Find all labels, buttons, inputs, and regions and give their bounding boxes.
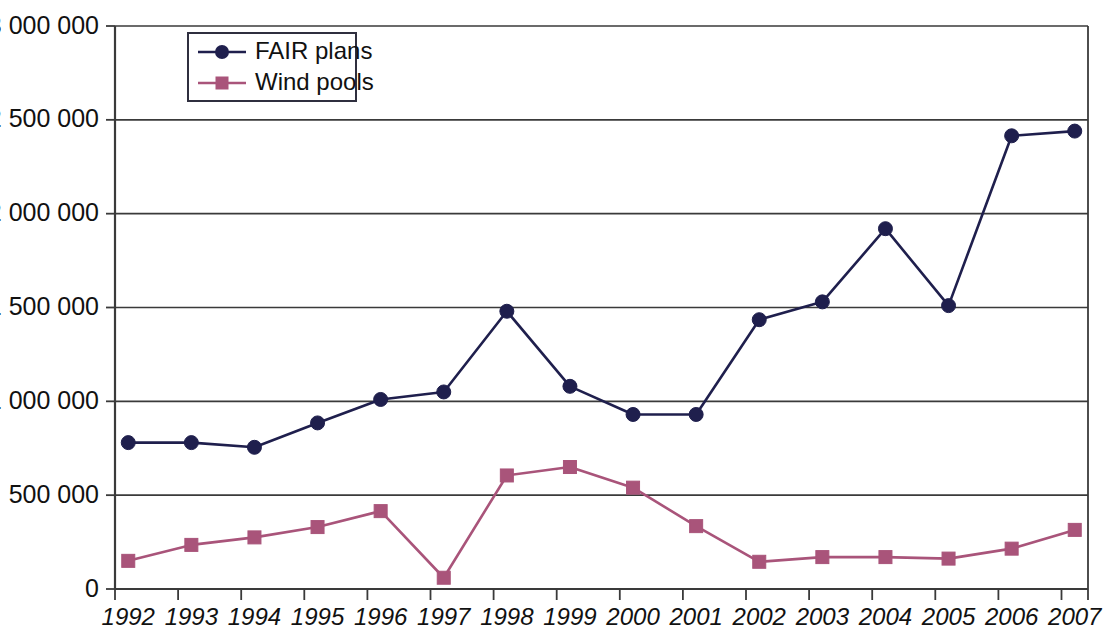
x-tick-label: 2007 bbox=[1047, 603, 1103, 630]
data-point-marker bbox=[942, 299, 956, 313]
x-tick-label: 2001 bbox=[668, 603, 722, 630]
line-chart: 0500 0001 000 0001 500 0002 000 0002 500… bbox=[0, 0, 1113, 639]
x-tick-label: 2002 bbox=[732, 603, 786, 630]
x-tick-label: 1992 bbox=[102, 603, 155, 630]
series-line bbox=[128, 131, 1074, 447]
x-tick-label: 1993 bbox=[165, 603, 219, 630]
x-tick-label: 2005 bbox=[921, 603, 976, 630]
y-tick-label: 0 bbox=[85, 574, 99, 602]
y-tick-label: 500 000 bbox=[9, 480, 99, 508]
chart-canvas: 0500 0001 000 0001 500 0002 000 0002 500… bbox=[0, 0, 1113, 639]
data-point-marker bbox=[753, 555, 766, 568]
square-marker-icon bbox=[216, 77, 229, 90]
x-tick-labels: 1992199319941995199619971998199920002001… bbox=[102, 603, 1104, 630]
x-axis bbox=[115, 26, 1088, 600]
y-tick-label: 3 000 000 bbox=[0, 11, 99, 39]
y-tick-label: 1 500 000 bbox=[0, 292, 99, 320]
y-axis bbox=[106, 26, 115, 589]
data-point-marker bbox=[689, 407, 703, 421]
data-point-marker bbox=[1005, 129, 1019, 143]
legend-label: Wind pools bbox=[255, 68, 374, 95]
data-point-marker bbox=[374, 505, 387, 518]
data-point-marker bbox=[1068, 124, 1082, 138]
x-tick-label: 2003 bbox=[795, 603, 850, 630]
data-point-marker bbox=[816, 551, 829, 564]
data-point-marker bbox=[374, 392, 388, 406]
data-point-marker bbox=[500, 469, 513, 482]
series-line bbox=[128, 467, 1074, 578]
x-tick-label: 1998 bbox=[480, 603, 534, 630]
y-tick-label: 2 000 000 bbox=[0, 198, 99, 226]
x-tick-label: 1994 bbox=[228, 603, 281, 630]
data-point-marker bbox=[121, 436, 135, 450]
data-point-marker bbox=[815, 295, 829, 309]
data-point-marker bbox=[311, 521, 324, 534]
data-point-marker bbox=[563, 461, 576, 474]
data-point-marker bbox=[247, 440, 261, 454]
legend-label: FAIR plans bbox=[255, 37, 372, 64]
series-wind-pools bbox=[122, 461, 1081, 585]
data-point-marker bbox=[437, 571, 450, 584]
data-point-marker bbox=[248, 531, 261, 544]
y-tick-labels: 0500 0001 000 0001 500 0002 000 0002 500… bbox=[0, 11, 99, 602]
circle-marker-icon bbox=[215, 45, 229, 59]
data-point-marker bbox=[1005, 542, 1018, 555]
x-tick-label: 2004 bbox=[858, 603, 912, 630]
data-point-marker bbox=[563, 379, 577, 393]
legend: FAIR plansWind pools bbox=[188, 33, 374, 101]
data-point-marker bbox=[690, 520, 703, 533]
x-tick-label: 1999 bbox=[543, 603, 596, 630]
x-tick-label: 1996 bbox=[354, 603, 408, 630]
x-tick-label: 1995 bbox=[291, 603, 345, 630]
data-point-marker bbox=[1068, 523, 1081, 536]
y-tick-label: 1 000 000 bbox=[0, 386, 99, 414]
data-point-marker bbox=[626, 407, 640, 421]
data-point-marker bbox=[437, 385, 451, 399]
x-tick-label: 1997 bbox=[417, 603, 472, 630]
data-point-marker bbox=[627, 481, 640, 494]
data-point-marker bbox=[879, 551, 892, 564]
x-tick-label: 2000 bbox=[605, 603, 660, 630]
y-tick-label: 2 500 000 bbox=[0, 104, 99, 132]
data-point-marker bbox=[878, 222, 892, 236]
x-tick-label: 2006 bbox=[984, 603, 1039, 630]
data-point-marker bbox=[311, 416, 325, 430]
data-point-marker bbox=[185, 538, 198, 551]
data-point-marker bbox=[752, 313, 766, 327]
data-point-marker bbox=[122, 554, 135, 567]
data-point-marker bbox=[184, 436, 198, 450]
data-point-marker bbox=[942, 552, 955, 565]
series-lines bbox=[121, 124, 1081, 584]
data-point-marker bbox=[500, 304, 514, 318]
series-fair-plans bbox=[121, 124, 1081, 454]
